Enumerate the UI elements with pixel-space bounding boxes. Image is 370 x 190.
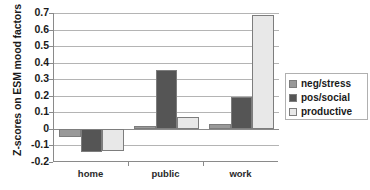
gridline xyxy=(54,63,279,64)
bar xyxy=(134,126,156,129)
y-axis-tick-label: 0.6 xyxy=(13,24,49,35)
y-axis-tick-label: -0.2 xyxy=(13,156,49,167)
legend-label: productive xyxy=(301,107,352,117)
plot-area xyxy=(53,13,278,162)
bar xyxy=(177,117,199,129)
x-axis-category-label: public xyxy=(126,168,206,179)
bar xyxy=(156,70,178,129)
x-axis-category-label: home xyxy=(51,168,131,179)
bar xyxy=(252,15,274,129)
legend-item: neg/stress xyxy=(289,77,367,91)
legend: neg/stresspos/socialproductive xyxy=(285,73,368,120)
legend-label: neg/stress xyxy=(301,79,351,89)
bar xyxy=(81,129,103,152)
x-axis-tick-mark xyxy=(203,162,204,166)
y-axis-tick-label: 0.2 xyxy=(13,90,49,101)
bar xyxy=(209,124,231,129)
legend-swatch-icon xyxy=(289,94,297,102)
legend-label: pos/social xyxy=(301,93,350,103)
bar-chart: Z-scores on ESM mood factors 0.70.60.50.… xyxy=(0,0,370,190)
bar xyxy=(231,97,253,129)
y-axis-tick-label: 0.7 xyxy=(13,7,49,18)
gridline xyxy=(54,30,279,31)
legend-item: pos/social xyxy=(289,91,367,105)
bar xyxy=(102,129,124,151)
y-axis-tick-label: 0 xyxy=(13,123,49,134)
y-axis-tick-label: 0.5 xyxy=(13,40,49,51)
y-axis-tick-mark xyxy=(49,162,53,163)
legend-swatch-icon xyxy=(289,108,297,116)
x-axis-category-label: work xyxy=(201,168,281,179)
x-axis-tick-mark xyxy=(128,162,129,166)
bar xyxy=(59,129,81,137)
y-axis-tick-label: 0.3 xyxy=(13,73,49,84)
legend-swatch-icon xyxy=(289,80,297,88)
gridline xyxy=(54,46,279,47)
y-axis-tick-label: 0.1 xyxy=(13,106,49,117)
y-axis-tick-label: 0.4 xyxy=(13,57,49,68)
gridline xyxy=(54,13,279,14)
legend-item: productive xyxy=(289,105,367,119)
y-axis-tick-label: -0.1 xyxy=(13,139,49,150)
